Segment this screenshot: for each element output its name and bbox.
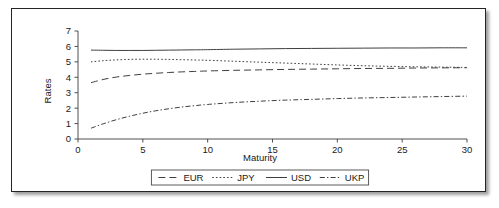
y-tick-label: 3 [66, 87, 71, 98]
series-line-ukp [91, 96, 467, 128]
y-tick-label: 7 [66, 25, 71, 36]
legend-label-eur: EUR [183, 172, 203, 183]
screenshot-root: 01234567 051015202530 Rates Maturity EUR… [0, 0, 499, 208]
series-line-jpy [91, 59, 467, 67]
x-axis-title: Maturity [243, 152, 277, 163]
x-tick-label: 30 [462, 144, 473, 155]
figure-frame: 01234567 051015202530 Rates Maturity EUR… [11, 8, 486, 192]
legend-label-jpy: JPY [237, 172, 255, 183]
y-tick-label: 0 [66, 133, 71, 144]
x-tick-label: 25 [397, 144, 408, 155]
series-group [91, 48, 467, 128]
x-tick-label: 5 [140, 144, 145, 155]
y-tick-label: 4 [66, 72, 71, 83]
line-chart: 01234567 051015202530 Rates Maturity EUR… [12, 9, 487, 193]
y-tick-label: 5 [66, 56, 71, 67]
series-line-usd [91, 48, 467, 51]
series-line-eur [91, 68, 467, 83]
y-axis-title: Rates [42, 78, 53, 103]
y-tick-label: 6 [66, 41, 71, 52]
x-tick-label: 20 [332, 144, 343, 155]
legend-label-ukp: UKP [345, 172, 365, 183]
y-axis-ticks: 01234567 [66, 25, 78, 144]
chart-legend: EURJPYUSDUKP [151, 170, 368, 185]
x-tick-label: 10 [202, 144, 213, 155]
x-tick-label: 0 [75, 144, 80, 155]
y-tick-label: 2 [66, 103, 71, 114]
y-tick-label: 1 [66, 118, 71, 129]
legend-label-usd: USD [291, 172, 311, 183]
chart-svg: 01234567 051015202530 Rates Maturity EUR… [12, 9, 487, 193]
